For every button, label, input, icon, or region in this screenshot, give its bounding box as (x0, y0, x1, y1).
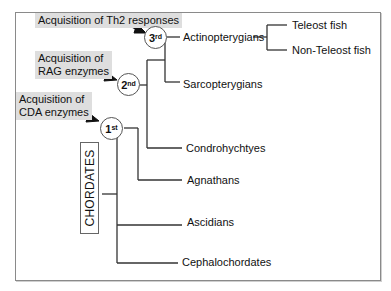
taxon-ascidians: Ascidians (187, 216, 234, 229)
chordates-box: CHORDATES (80, 142, 99, 234)
taxon-teleost: Teleost fish (292, 19, 347, 32)
taxon-non-teleost: Non-Teleost fish (292, 44, 371, 57)
taxon-cephalochordates: Cephalochordates (182, 256, 271, 269)
node-2nd: 2nd (117, 73, 140, 96)
callout-th2: Acquisition of Th2 responses (35, 13, 182, 28)
chordates-label: CHORDATES (83, 149, 97, 226)
taxon-agnathans: Agnathans (187, 174, 240, 187)
taxon-sarcopterygians: Sarcopterygians (183, 78, 263, 91)
taxon-condrohychtyes: Condrohychtyes (186, 142, 266, 155)
taxon-actinopterygians: Actinopterygians (183, 31, 264, 44)
callout-cda: Acquisition of CDA enzymes (16, 92, 92, 120)
node-1st: 1st (100, 117, 123, 140)
callout-rag: Acquisition of RAG enzymes (35, 51, 112, 79)
node-3rd: 3rd (144, 26, 167, 49)
